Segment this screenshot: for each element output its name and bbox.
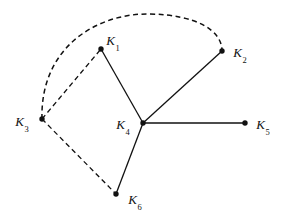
vertex-label-subscript: 4 — [126, 127, 130, 137]
vertex-label-k5: K5 — [256, 118, 269, 131]
dashed-edge-group — [42, 49, 116, 194]
vertex-label-base: K — [116, 117, 125, 132]
vertex-label-base: K — [256, 117, 265, 132]
graph-canvas — [0, 0, 282, 218]
edge-k3-k1 — [42, 49, 101, 119]
vertex-dot-k5[interactable] — [242, 120, 247, 125]
vertex-dot-k6[interactable] — [113, 191, 118, 196]
edge-k1-k4 — [101, 49, 143, 123]
vertex-label-base: K — [106, 33, 115, 48]
edge-k3-k6 — [42, 119, 116, 194]
vertex-label-k4: K4 — [116, 118, 129, 131]
vertex-label-k1: K1 — [106, 34, 119, 47]
vertex-label-subscript: 6 — [138, 202, 142, 212]
vertex-label-subscript: 2 — [243, 55, 247, 65]
edge-k4-k2 — [143, 51, 222, 123]
vertex-label-k2: K2 — [233, 46, 246, 59]
vertex-dot-k4[interactable] — [140, 120, 145, 125]
vertex-label-k6: K6 — [128, 193, 141, 206]
vertex-dot-k1[interactable] — [98, 46, 103, 51]
vertex-label-subscript: 1 — [116, 43, 120, 53]
vertex-dot-k3[interactable] — [39, 116, 44, 121]
vertex-dot-k2[interactable] — [219, 48, 224, 53]
vertex-dot-group — [39, 46, 247, 196]
vertex-label-subscript: 5 — [266, 127, 270, 137]
vertex-label-subscript: 3 — [25, 124, 29, 134]
vertex-label-base: K — [233, 45, 242, 60]
vertex-label-base: K — [15, 114, 24, 129]
vertex-label-k3: K3 — [15, 115, 28, 128]
graph-figure: K1K2K3K4K5K6 — [0, 0, 282, 218]
vertex-label-base: K — [128, 192, 137, 207]
